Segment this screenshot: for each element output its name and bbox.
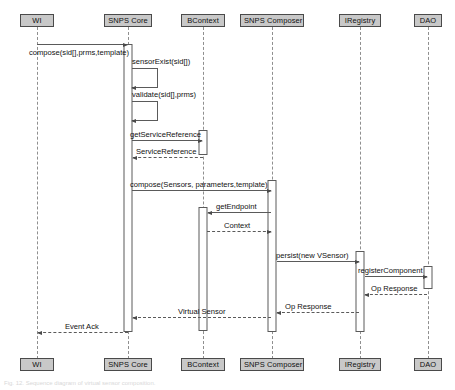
selfcall-loop-sensor-exist xyxy=(132,68,158,88)
message-label-validate: validate(sid[],prms) xyxy=(132,90,196,99)
arrowhead-icon xyxy=(123,43,128,47)
arrowhead-icon xyxy=(198,139,203,143)
message-label-virtual-sensor: Virtual Sensor xyxy=(178,307,226,316)
message-label-register-component: registerComponent xyxy=(358,266,423,275)
actor-foot-core[interactable]: SNPS Core xyxy=(104,358,152,371)
actor-head-core[interactable]: SNPS Core xyxy=(104,14,152,27)
actor-head-wi[interactable]: WI xyxy=(20,14,54,27)
figure-caption: Fig. 12. Sequence diagram of virtual sen… xyxy=(4,379,155,387)
message-arrow-service-reference xyxy=(133,157,203,158)
lifeline-wi xyxy=(37,27,38,359)
message-arrow-get-service-reference xyxy=(132,140,202,141)
message-label-op-response-iregistry: Op Response xyxy=(285,302,331,311)
lifeline-dao xyxy=(428,27,429,359)
arrowhead-icon xyxy=(132,156,137,160)
message-label-sensor-exist: sensorExist(sid[]) xyxy=(132,57,190,66)
arrowhead-icon xyxy=(267,230,272,234)
actor-head-dao[interactable]: DAO xyxy=(414,14,442,27)
selfcall-loop-validate xyxy=(132,101,158,121)
arrowhead-icon xyxy=(207,211,212,215)
message-arrow-compose-sensors xyxy=(132,190,271,191)
arrowhead-icon xyxy=(276,311,281,315)
message-arrow-context xyxy=(207,231,271,232)
message-label-compose-sensors: compose(Sensors, parameters,template) xyxy=(130,180,268,189)
actor-foot-dao[interactable]: DAO xyxy=(414,358,442,371)
message-label-get-service-reference: getServiceReference xyxy=(130,130,201,139)
message-arrow-op-response-iregistry xyxy=(277,312,359,313)
arrowhead-icon xyxy=(355,260,360,264)
message-arrow-register-component xyxy=(365,276,427,277)
message-label-get-endpoint: getEndpoint xyxy=(216,202,257,211)
message-arrow-virtual-sensor xyxy=(133,317,271,318)
message-arrow-persist xyxy=(277,261,359,262)
sequence-diagram-canvas: WI SNPS Core BContext SNPS Composer IReg… xyxy=(0,0,455,390)
message-arrow-get-endpoint xyxy=(208,212,271,213)
message-arrow-event-ack xyxy=(38,332,128,333)
arrowhead-icon xyxy=(423,275,428,279)
arrowhead-icon xyxy=(131,86,136,90)
arrowhead-icon xyxy=(132,316,137,320)
actor-head-composer[interactable]: SNPS Composer xyxy=(240,14,304,27)
actor-foot-wi[interactable]: WI xyxy=(20,358,54,371)
actor-head-bcontext[interactable]: BContext xyxy=(181,14,225,27)
arrowhead-icon xyxy=(131,119,136,123)
actor-foot-iregistry[interactable]: IRegistry xyxy=(339,358,381,371)
message-label-compose-sid: compose(sid[],prms,template) xyxy=(29,48,129,57)
message-label-persist: persist(new VSensor) xyxy=(276,251,349,260)
message-label-event-ack: Event Ack xyxy=(65,322,99,331)
actor-head-iregistry[interactable]: IRegistry xyxy=(339,14,381,27)
actor-foot-composer[interactable]: SNPS Composer xyxy=(240,358,304,371)
arrowhead-icon xyxy=(364,293,369,297)
arrowhead-icon xyxy=(37,331,42,335)
message-label-context: Context xyxy=(224,221,250,230)
message-arrow-compose-sid xyxy=(37,44,127,45)
message-label-op-response-dao: Op Response xyxy=(371,284,417,293)
actor-foot-bcontext[interactable]: BContext xyxy=(181,358,225,371)
message-label-service-reference: ServiceReference xyxy=(136,147,196,156)
arrowhead-icon xyxy=(267,189,272,193)
message-arrow-op-response-dao xyxy=(365,294,427,295)
